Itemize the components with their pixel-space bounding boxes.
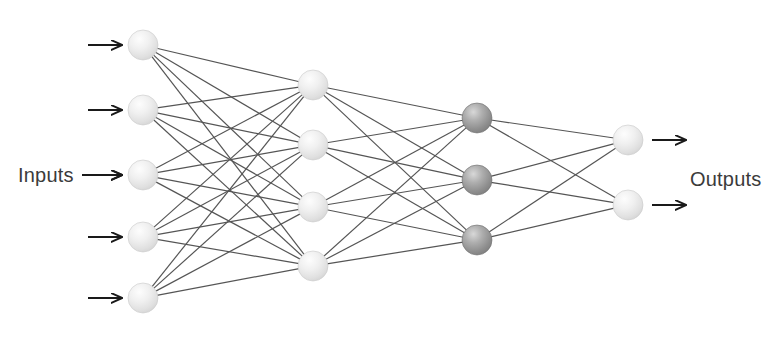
connection-edge: [491, 208, 615, 237]
neuron-nodes: [128, 30, 643, 313]
neuron-node: [298, 130, 328, 160]
neuron-node: [128, 30, 158, 60]
outputs-label: Outputs: [690, 168, 761, 190]
neuron-node: [462, 103, 492, 133]
inputs-label: Inputs: [18, 164, 74, 186]
connection-edge: [153, 154, 302, 288]
connection-edge: [157, 239, 299, 263]
connection-edge: [155, 214, 300, 292]
connection-edge: [491, 144, 615, 177]
connection-edge: [491, 182, 614, 202]
neuron-node: [298, 70, 328, 100]
connection-edge: [325, 125, 464, 201]
connection-edge: [157, 269, 299, 296]
neuron-node: [128, 160, 158, 190]
connection-edge: [153, 94, 302, 227]
connection-edge: [325, 187, 464, 260]
neural-network-canvas: Inputs Outputs: [0, 0, 772, 339]
neuron-node: [298, 251, 328, 281]
connection-edges: [152, 48, 617, 295]
neuron-node: [462, 165, 492, 195]
connection-edge: [152, 56, 305, 255]
neuron-node: [128, 95, 158, 125]
connection-edge: [157, 113, 300, 142]
neuron-node: [128, 222, 158, 252]
neuron-node: [298, 192, 328, 222]
connection-edge: [327, 242, 463, 264]
connection-edge: [157, 147, 299, 172]
connection-edge: [327, 88, 464, 115]
neuron-node: [613, 125, 643, 155]
connection-edge: [325, 92, 465, 173]
connection-edge: [323, 127, 466, 256]
connection-edge: [155, 182, 300, 260]
neural-network-diagram: Inputs Outputs: [0, 0, 772, 339]
neuron-node: [613, 190, 643, 220]
connection-edge: [327, 182, 463, 204]
neuron-node: [462, 225, 492, 255]
connection-edge: [327, 120, 463, 142]
connection-edge: [491, 120, 614, 138]
neuron-node: [128, 283, 158, 313]
